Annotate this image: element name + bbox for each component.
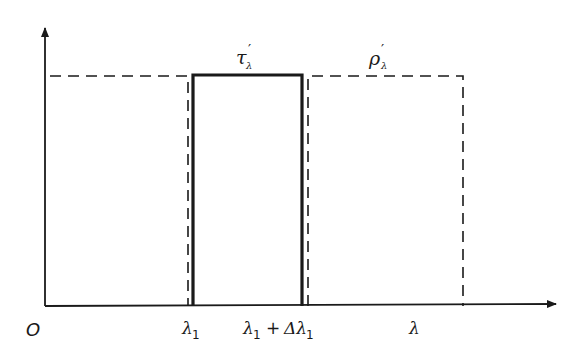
reflectance-curve-right	[308, 76, 463, 306]
tick-label-lambda1: λ 1	[181, 318, 200, 342]
delta-lambda-symbol: Δλ	[283, 318, 307, 338]
tick-label-lambda1-plus-delta: λ 1 + Δλ 1	[242, 318, 314, 342]
delta-lambda-subscript: 1	[306, 328, 314, 342]
transmittance-label: τ ′ λ	[236, 42, 252, 71]
tau-prime: ′	[248, 42, 251, 58]
plus-sign: +	[266, 318, 280, 338]
lambda1-symbol: λ	[242, 318, 254, 338]
reflectance-curve-left	[50, 76, 188, 306]
lambda1-subscript: 1	[253, 328, 261, 342]
rho-symbol: ρ	[368, 47, 381, 69]
lambda1-subscript: 1	[192, 328, 200, 342]
rho-subscript: λ	[380, 60, 387, 71]
lambda1-symbol: λ	[181, 318, 193, 338]
spectral-diagram: τ ′ λ ρ ′ λ O λ 1 λ 1 + Δλ 1 λ	[0, 0, 585, 353]
reflectance-label: ρ ′ λ	[368, 42, 387, 71]
x-axis-label: λ	[408, 318, 420, 338]
origin-label: O	[26, 319, 40, 340]
transmittance-curve	[193, 75, 302, 306]
rho-prime: ′	[381, 42, 384, 58]
tau-subscript: λ	[245, 60, 252, 71]
